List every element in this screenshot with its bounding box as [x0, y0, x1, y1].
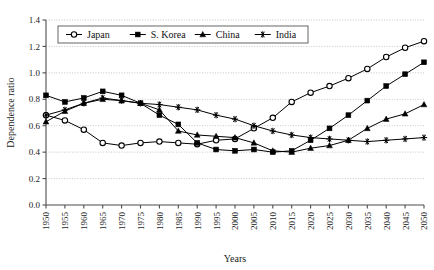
series-marker — [213, 112, 219, 118]
x-tick-label-1990: 1990 — [193, 212, 203, 231]
series-marker — [308, 90, 313, 95]
series-marker — [156, 101, 162, 107]
x-tick-label-1995: 1995 — [212, 212, 222, 231]
x-tick-label-1950: 1950 — [41, 212, 51, 231]
x-axis-title: Years — [224, 253, 246, 264]
series-marker — [100, 140, 105, 145]
legend-marker — [71, 32, 76, 37]
series-marker — [176, 140, 181, 145]
series-marker — [270, 115, 275, 120]
series-marker — [326, 136, 332, 142]
data-series-group — [43, 38, 427, 154]
legend-label: China — [216, 29, 240, 40]
series-marker — [119, 143, 124, 148]
series-marker — [383, 137, 389, 143]
y-tick-label-0.4: 0.4 — [29, 147, 41, 157]
series-marker — [402, 45, 407, 50]
series-marker — [421, 101, 427, 106]
series-marker — [175, 104, 181, 110]
legend-label: S. Korea — [151, 29, 187, 40]
y-tick-label-0.0: 0.0 — [29, 200, 41, 210]
x-tick-label-2015: 2015 — [287, 212, 297, 231]
series-marker — [157, 139, 162, 144]
series-marker — [195, 140, 200, 145]
series-marker — [364, 138, 370, 144]
series-marker — [62, 118, 67, 123]
x-tick-label-1985: 1985 — [174, 212, 184, 231]
y-tick-label-0.8: 0.8 — [29, 94, 41, 104]
series-marker — [232, 116, 238, 122]
series-marker — [214, 147, 219, 152]
series-marker — [365, 66, 370, 71]
axis-titles: YearsDependence ratio — [5, 77, 246, 264]
x-tick-label-2035: 2035 — [363, 212, 373, 231]
series-marker — [346, 113, 351, 118]
series-marker — [421, 134, 427, 140]
series-marker — [100, 89, 105, 94]
chart-figure: 0.00.20.40.60.81.01.21.4 195019551960196… — [0, 0, 434, 270]
legend-marker — [135, 32, 140, 37]
x-tick-label-1975: 1975 — [136, 212, 146, 231]
series-marker — [289, 132, 295, 138]
x-tick-label-1965: 1965 — [98, 212, 108, 231]
x-tick-label-1980: 1980 — [155, 212, 165, 231]
series-marker — [194, 107, 200, 113]
x-tick-label-1970: 1970 — [117, 212, 127, 231]
series-marker — [384, 84, 389, 89]
x-axis-ticks: 1950195519601965197019751980198519901995… — [41, 205, 429, 230]
x-tick-label-2025: 2025 — [325, 212, 335, 231]
series-marker — [43, 119, 49, 124]
y-tick-label-1.2: 1.2 — [29, 42, 40, 52]
series-marker — [402, 111, 408, 116]
y-tick-label-1.0: 1.0 — [29, 68, 41, 78]
y-axis-title: Dependence ratio — [5, 77, 16, 147]
series-marker — [44, 93, 49, 98]
series-marker — [346, 75, 351, 80]
series-marker — [403, 72, 408, 77]
legend-label: India — [276, 29, 297, 40]
x-tick-label-2050: 2050 — [419, 212, 429, 231]
series-marker — [384, 54, 389, 59]
series-marker — [365, 98, 370, 103]
x-tick-label-2010: 2010 — [268, 212, 278, 231]
series-marker — [138, 140, 143, 145]
x-tick-label-2030: 2030 — [344, 212, 354, 231]
series-marker — [252, 147, 257, 152]
series-marker — [270, 128, 276, 134]
series-marker — [402, 136, 408, 142]
x-tick-label-2045: 2045 — [401, 212, 411, 231]
legend-label: Japan — [87, 29, 110, 40]
series-marker — [63, 100, 68, 105]
plot-frame — [46, 20, 424, 205]
y-tick-label-1.4: 1.4 — [29, 15, 41, 25]
x-tick-label-2000: 2000 — [230, 212, 240, 231]
y-axis-ticks: 0.00.20.40.60.81.01.21.4 — [29, 15, 46, 210]
x-tick-label-2040: 2040 — [382, 212, 392, 231]
x-tick-label-2020: 2020 — [306, 212, 316, 231]
series-marker — [422, 60, 427, 65]
series-marker — [176, 122, 181, 127]
legend-box: JapanS. KoreaChinaIndia — [58, 26, 308, 43]
dependence-ratio-line-chart: 0.00.20.40.60.81.01.21.4 195019551960196… — [0, 0, 434, 270]
series-marker — [157, 113, 162, 118]
series-marker — [289, 99, 294, 104]
x-tick-label-1960: 1960 — [79, 212, 89, 231]
x-tick-label-1955: 1955 — [60, 212, 70, 231]
series-marker — [327, 83, 332, 88]
x-tick-label-2005: 2005 — [249, 212, 259, 231]
y-tick-label-0.2: 0.2 — [29, 174, 40, 184]
series-marker — [81, 127, 86, 132]
series-marker — [421, 38, 426, 43]
series-marker — [233, 148, 238, 153]
series-marker — [327, 126, 332, 131]
y-tick-label-0.6: 0.6 — [29, 121, 41, 131]
